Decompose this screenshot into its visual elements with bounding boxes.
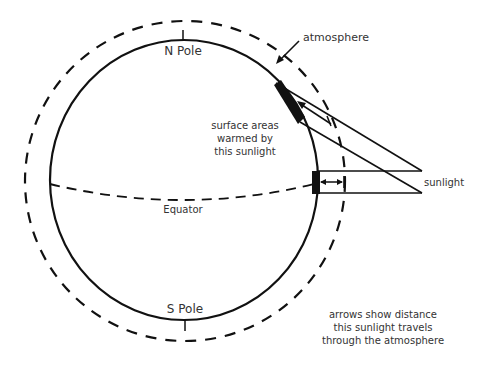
south-pole-label: S Pole [167,302,203,316]
horizontal-distance-arrowhead-left [320,179,326,185]
arrows-note-label: arrows show distance this sunlight trave… [322,309,444,346]
arrows-note-line-2: this sunlight travels [334,322,433,333]
arrows-note-line-3: through the atmosphere [322,335,444,346]
equator-label: Equator [163,204,203,215]
surface-areas-line-2: warmed by [217,133,273,144]
equator-line [50,184,314,200]
north-pole-label: N Pole [164,44,202,58]
atmosphere-boundary [25,21,345,341]
arrows-note-line-1: arrows show distance [329,309,437,320]
surface-areas-line-1: surface areas [211,120,279,131]
sunlight-label: sunlight [424,177,464,188]
atmosphere-sunlight-diagram: atmosphere N Pole S Pole Equator sunligh… [0,0,483,367]
horizontal-distance-arrowhead-right [337,179,343,185]
atmosphere-label: atmosphere [303,31,369,44]
horizontal-warmed-surface [312,171,320,194]
surface-areas-label: surface areas warmed by this sunlight [211,120,279,157]
slanted-beam-upper [276,83,422,171]
earth-outline [50,40,318,320]
surface-areas-line-3: this sunlight [214,146,276,157]
